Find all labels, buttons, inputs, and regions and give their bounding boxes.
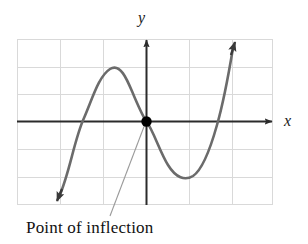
graph-plot xyxy=(0,0,308,244)
inflection-point-marker xyxy=(141,116,151,126)
leader-line xyxy=(110,124,145,216)
point-of-inflection-caption: Point of inflection xyxy=(26,219,154,238)
figure-container: y x Point of inflection xyxy=(0,0,308,244)
x-axis-label: x xyxy=(284,113,291,129)
y-axis-label: y xyxy=(138,10,145,26)
